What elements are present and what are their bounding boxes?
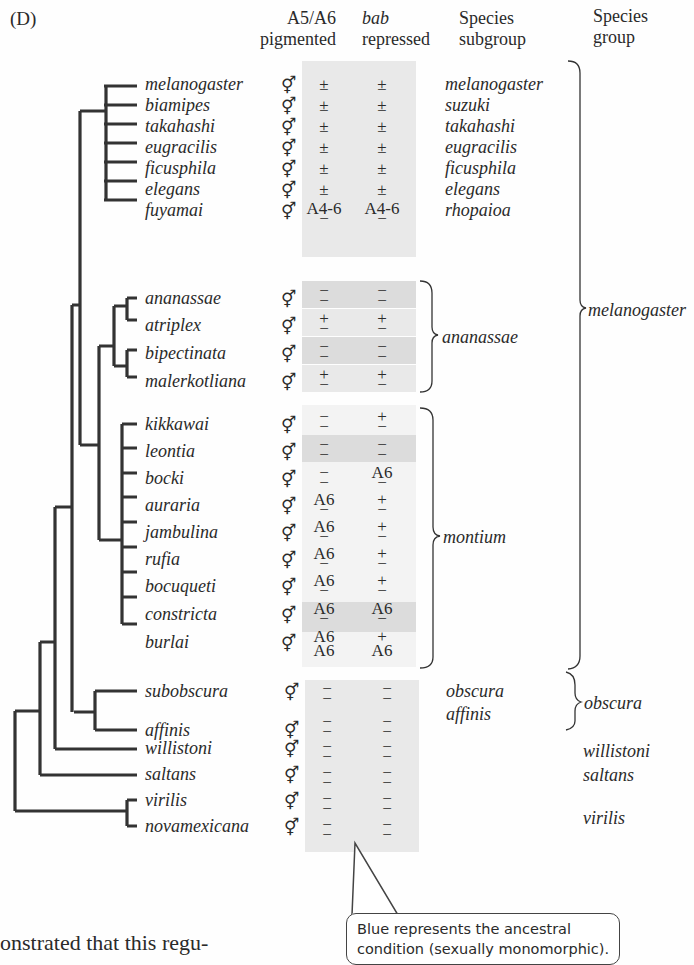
cell-value-bottom: − [352,320,412,338]
body-text-fragment: onstrated that this regu- [0,930,208,956]
cell-value-bottom: − [294,446,354,464]
cell-value-bottom: − [352,376,412,394]
cell-bab: −− [352,282,412,310]
cell-bab: A4-6− [352,200,412,228]
species-melanogaster: melanogaster [145,74,243,94]
cell-bab: +− [352,310,412,338]
cell-bab: −− [357,790,417,818]
header-group-line2: group [593,27,648,48]
cell-bab: +− [352,491,412,519]
species-biamipes: biamipes [145,95,210,115]
species-bocuqueti: bocuqueti [145,576,216,596]
cell-a5a6: A6− [294,545,354,573]
cell-a5a6: A6− [294,518,354,546]
cell-value-bottom: − [294,348,354,366]
bracket-label-montium: montium [443,527,506,547]
group-label-virilis: virilis [583,808,625,828]
cell-a5a6: A6− [294,491,354,519]
cell-value-bottom: − [294,292,354,310]
cell-bab: A6− [352,600,412,628]
cell-bab: −− [357,738,417,766]
cell-value-bottom: − [297,690,357,708]
cell-bab: −− [357,680,417,708]
cell-a5a6: A4-6− [294,200,354,228]
cell-bab: A6− [352,464,412,492]
species-jambulina: jambulina [145,522,218,542]
species-virilis: virilis [145,790,187,810]
cell-a5a6: +− [294,310,354,338]
group-label-saltans: saltans [583,765,634,785]
cell-a5a6: ± [294,76,354,94]
species-bocki: bocki [145,468,184,488]
cell-value-bottom: − [352,292,412,310]
cell-bab: +− [352,518,412,546]
species-atriplex: atriplex [145,315,201,335]
cell-value-bottom: − [294,610,354,628]
cell-value-bottom: − [294,418,354,436]
cell-value-bottom: A6 [352,642,412,660]
cell-a5a6: −− [297,738,357,766]
cell-value-bottom: − [352,582,412,600]
species-auraria: auraria [145,495,200,515]
cell-bab: ± [352,181,412,199]
callout-pointer [340,840,420,920]
cell-a5a6: −− [297,680,357,708]
cell-a5a6: A6− [294,600,354,628]
cell-a5a6: A6A6 [294,628,354,660]
cell-value-bottom: − [294,320,354,338]
cell-a5a6: −− [294,408,354,436]
cell-bab: ± [352,118,412,136]
group-label-obscura: obscura [584,693,642,713]
species-kikkawai: kikkawai [145,414,209,434]
cell-a5a6: −− [294,282,354,310]
cell-a5a6: −− [294,338,354,366]
cell-bab: +− [352,545,412,573]
cell-bab: ± [352,76,412,94]
cell-value-bottom: − [352,210,412,228]
species-saltans: saltans [145,764,196,784]
cell-value-bottom: − [294,376,354,394]
species-novamexicana: novamexicana [145,816,249,836]
header-group-line1: Species [593,6,648,27]
group-label-willistoni: willistoni [583,741,650,761]
cell-value-bottom: − [357,690,417,708]
cell-a5a6: −− [297,764,357,792]
cell-value-bottom: − [352,610,412,628]
cell-a5a6: −− [294,464,354,492]
cell-bab: −− [357,764,417,792]
species-leontia: leontia [145,441,195,461]
cell-bab: +− [352,366,412,394]
bracket-label-ananassae: ananassae [442,327,518,347]
species-burlai: burlai [145,632,189,652]
header-group: Species group [593,6,648,48]
cell-bab: −− [352,436,412,464]
cell-bab: −− [352,338,412,366]
cell-a5a6: −− [294,436,354,464]
cell-a5a6: ± [294,181,354,199]
species-rufia: rufia [145,549,180,569]
cell-bab: ± [352,139,412,157]
cell-value-bottom: − [352,446,412,464]
cell-a5a6: ± [294,118,354,136]
species-bipectinata: bipectinata [145,343,226,363]
cell-a5a6: ± [294,160,354,178]
species-ficusphila: ficusphila [145,158,216,178]
cell-value-bottom: A6 [294,642,354,660]
species-eugracilis: eugracilis [145,137,217,157]
callout-line2: condition (sexually monomorphic). [357,939,609,959]
cell-value-bottom: − [352,348,412,366]
cell-bab: ± [352,160,412,178]
cell-value-bottom: − [294,210,354,228]
cell-a5a6: +− [294,366,354,394]
callout-line1: Blue represents the ancestral [357,919,609,939]
species-ananassae: ananassae [145,288,221,308]
cell-a5a6: ± [294,139,354,157]
species-fuyamai: fuyamai [145,200,203,220]
cell-bab: +A6 [352,628,412,660]
cell-a5a6: ± [294,97,354,115]
cell-a5a6: A6− [294,572,354,600]
cell-value-bottom: − [294,582,354,600]
cell-bab: +− [352,572,412,600]
group-label-melanogaster: melanogaster [588,300,686,320]
species-malerkotliana: malerkotliana [145,371,246,391]
